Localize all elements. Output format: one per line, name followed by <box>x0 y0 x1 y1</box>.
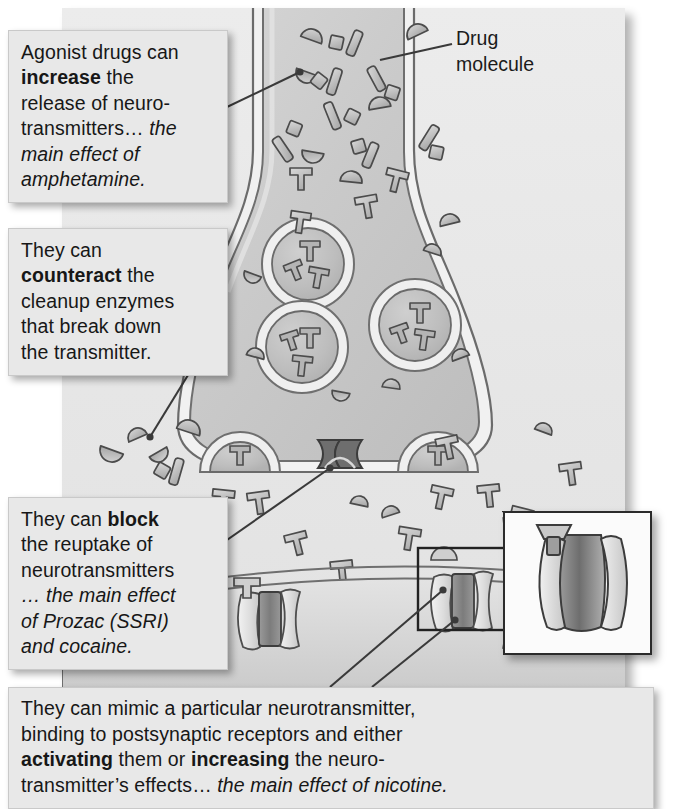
drug-molecule-label-line2: molecule <box>456 52 606 78</box>
callout-line: the reuptake of <box>21 532 217 557</box>
callout-line: and cocaine. <box>21 634 217 659</box>
callout-line: release of neuro- <box>21 91 217 116</box>
callout-counteract-enzymes: They can counteract the cleanup enzymes … <box>8 228 228 376</box>
callout-line: They can mimic a particular neurotransmi… <box>21 696 643 722</box>
callout-line: transmitters… the <box>21 116 217 141</box>
vesicle <box>262 218 354 310</box>
receptor-magnifier-inset <box>503 511 652 655</box>
drug-molecule-label: Drug molecule <box>456 26 606 77</box>
callout-line: that break down <box>21 314 217 339</box>
callout-mimic-receptors: They can mimic a particular neurotransmi… <box>8 687 654 809</box>
vesicle <box>256 301 348 393</box>
callout-line: transmitter’s effects… the main effect o… <box>21 773 643 799</box>
callout-line: the transmitter. <box>21 340 217 365</box>
callout-line: counteract the <box>21 263 217 288</box>
callout-line: Agonist drugs can <box>21 40 217 65</box>
callout-line: binding to postsynaptic receptors and ei… <box>21 722 643 748</box>
inset-binding-stem <box>547 537 560 555</box>
callout-line: main effect of <box>21 142 217 167</box>
callout-agonist-release: Agonist drugs can increase the release o… <box>8 30 228 203</box>
callout-line: increase the <box>21 65 217 90</box>
callout-line: amphetamine. <box>21 167 217 192</box>
drug-molecule-label-line1: Drug <box>456 26 606 52</box>
inset-channel <box>559 535 606 631</box>
callout-line: neurotransmitters <box>21 558 217 583</box>
inset-artwork <box>505 513 650 653</box>
callout-line: cleanup enzymes <box>21 289 217 314</box>
callout-line: … the main effect <box>21 583 217 608</box>
callout-block-reuptake: They can block the reuptake of neurotran… <box>8 497 228 670</box>
callout-line: of Prozac (SSRI) <box>21 609 217 634</box>
callout-line: activating them or increasing the neuro- <box>21 747 643 773</box>
callout-line: They can <box>21 238 217 263</box>
vesicle <box>369 279 461 371</box>
reuptake-transporter-icon <box>318 440 362 468</box>
callout-line: They can block <box>21 507 217 532</box>
